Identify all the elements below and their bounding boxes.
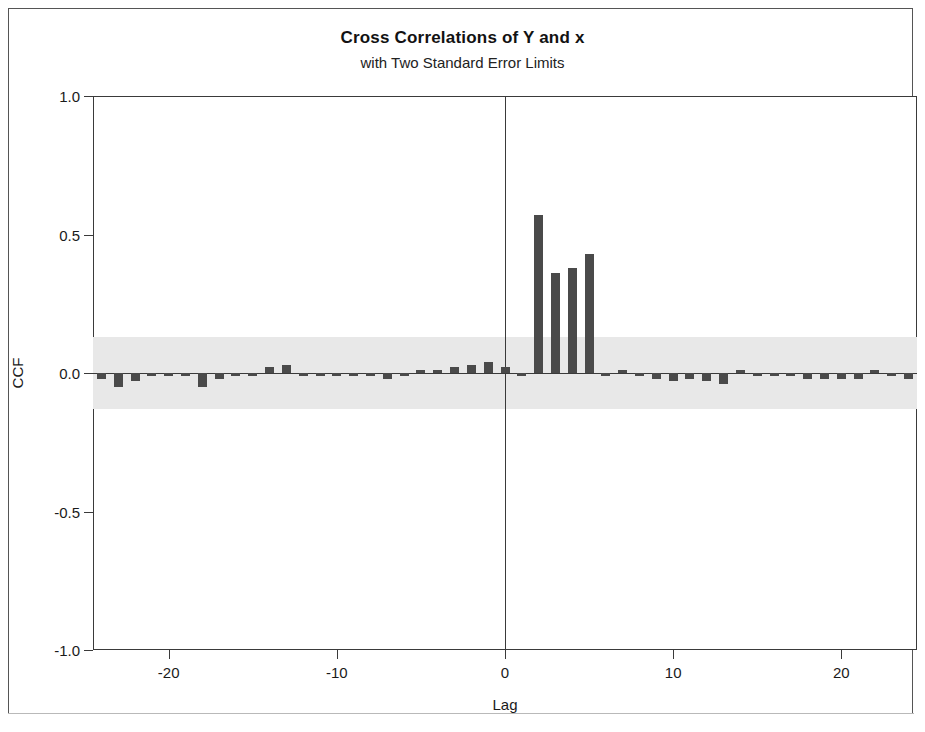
bar [534, 215, 543, 373]
x-axis-tick-label: 20 [833, 664, 850, 681]
y-axis-tick-label: 0.5 [59, 226, 80, 243]
x-axis-tick [505, 650, 506, 659]
y-axis-tick-label: -1.0 [54, 642, 80, 659]
bar [97, 373, 106, 379]
y-axis-tick [84, 373, 93, 374]
bar [231, 373, 240, 376]
bar [786, 373, 795, 376]
bar [685, 373, 694, 379]
bar [164, 373, 173, 376]
bar [652, 373, 661, 379]
bar [114, 373, 123, 387]
x-axis-tick-label: -10 [326, 664, 348, 681]
x-axis-tick [169, 650, 170, 659]
y-axis-tick-label: 0.0 [59, 365, 80, 382]
bar [870, 370, 879, 373]
chart-title: Cross Correlations of Y and x [0, 28, 925, 48]
x-axis-tick [337, 650, 338, 659]
bar [719, 373, 728, 384]
chart-subtitle: with Two Standard Error Limits [0, 54, 925, 71]
bar [400, 373, 409, 376]
bar [887, 373, 896, 376]
bar [669, 373, 678, 381]
bar [282, 365, 291, 373]
bar [803, 373, 812, 379]
bar [635, 373, 644, 376]
y-axis-title: CCF [9, 358, 26, 389]
bar [702, 373, 711, 381]
bar [433, 370, 442, 373]
x-axis-tick-label: 0 [501, 664, 509, 681]
bar [383, 373, 392, 379]
y-axis-tick [84, 512, 93, 513]
x-axis-tick [841, 650, 842, 659]
bar [265, 367, 274, 373]
x-axis-title: Lag [492, 696, 517, 713]
bar [450, 367, 459, 373]
bar [837, 373, 846, 379]
bar [736, 370, 745, 373]
bar [904, 373, 913, 379]
bar [484, 362, 493, 373]
page-border-bottom [8, 713, 914, 714]
y-axis-tick [84, 235, 93, 236]
y-axis-tick-label: -0.5 [54, 503, 80, 520]
bar [568, 268, 577, 373]
bar [131, 373, 140, 381]
bar [753, 373, 762, 376]
chart-page: Cross Correlations of Y and x with Two S… [0, 0, 925, 732]
bar [316, 373, 325, 376]
bar [601, 373, 610, 376]
lag-zero-reference-line [505, 96, 506, 650]
plot-area: 1.00.50.0-0.5-1.0 CCF -20-1001020 Lag [93, 96, 917, 650]
y-axis-tick [84, 96, 93, 97]
x-axis-tick-label: 10 [665, 664, 682, 681]
bar [820, 373, 829, 379]
bar [147, 373, 156, 376]
x-axis-tick-label: -20 [158, 664, 180, 681]
bar [501, 367, 510, 373]
bar [854, 373, 863, 379]
bar [517, 373, 526, 376]
bar [198, 373, 207, 387]
y-axis-tick [84, 650, 93, 651]
bar [248, 373, 257, 376]
bar [349, 373, 358, 376]
bar [181, 373, 190, 376]
bar [467, 365, 476, 373]
bar [416, 370, 425, 373]
bar [215, 373, 224, 379]
bar [618, 370, 627, 373]
bar [332, 373, 341, 376]
bar [299, 373, 308, 376]
bar [585, 254, 594, 373]
y-axis-tick-label: 1.0 [59, 88, 80, 105]
bar [551, 273, 560, 373]
bar [770, 373, 779, 376]
x-axis-tick [673, 650, 674, 659]
bar [366, 373, 375, 376]
